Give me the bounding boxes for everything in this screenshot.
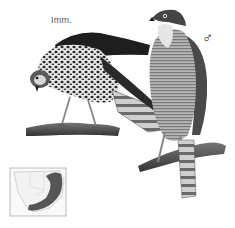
left-branch xyxy=(26,123,120,136)
immature-bird xyxy=(30,33,162,133)
illustration-art xyxy=(0,0,235,228)
immature-label: Imm. xyxy=(51,15,72,25)
illustration-plate: Imm. ♂ xyxy=(0,0,235,228)
adult-male-bird xyxy=(149,10,207,198)
male-symbol-label: ♂ xyxy=(202,30,213,45)
distribution-map xyxy=(10,168,66,216)
